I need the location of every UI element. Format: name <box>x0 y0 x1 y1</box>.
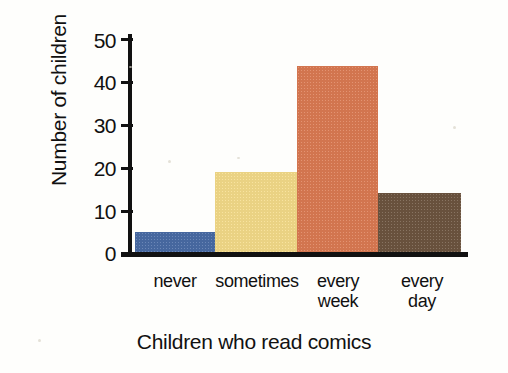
x-category-label-sometimes: sometimes <box>207 271 307 291</box>
x-category-label-every-week-line1: every <box>317 271 359 291</box>
scan-speck <box>129 66 132 68</box>
x-category-label-every-week-line2: week <box>296 291 380 311</box>
bar-every-week <box>297 66 378 253</box>
scan-speck <box>237 157 240 159</box>
x-category-label-every-day-line2: day <box>380 291 464 311</box>
x-axis-title: Children who read comics <box>0 330 508 354</box>
x-category-label-never: never <box>132 271 218 291</box>
scan-speck <box>453 126 456 129</box>
x-category-label-sometimes-line1: sometimes <box>215 271 298 291</box>
x-category-label-never-line1: never <box>153 271 196 291</box>
bar-never <box>135 232 215 253</box>
x-category-label-every-day-line1: every <box>401 271 443 291</box>
bar-chart-figure: Number of children 50 40 30 20 10 0 neve… <box>0 0 508 373</box>
x-axis-line <box>121 252 468 257</box>
x-category-label-every-week: every week <box>296 271 380 311</box>
scan-speck <box>168 160 171 163</box>
scan-speck <box>38 339 41 342</box>
bars-layer <box>0 0 508 253</box>
bar-every-day <box>378 193 461 253</box>
bar-sometimes <box>215 172 297 253</box>
x-category-label-every-day: every day <box>380 271 464 311</box>
